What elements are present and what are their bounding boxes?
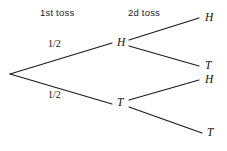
tree-edges-layer [0, 0, 227, 151]
edge-root-to-h [10, 43, 112, 74]
leaf-heads-heads: H [205, 12, 213, 24]
edge-probability-upper: 1/2 [48, 39, 61, 49]
node-first-toss-heads: H [117, 37, 125, 49]
column-header-second-toss: 2d toss [128, 8, 160, 18]
edge-h-to-h [129, 18, 199, 40]
edge-t-to-t [129, 107, 202, 133]
leaf-heads-tails: T [205, 60, 211, 72]
edge-root-to-t [10, 74, 112, 104]
edge-t-to-h [129, 80, 199, 100]
probability-tree-diagram: 1st toss 2d toss 1/2 1/2 H T H T H T [0, 0, 227, 151]
node-first-toss-tails: T [117, 97, 123, 109]
leaf-tails-tails: T [207, 127, 213, 139]
leaf-tails-heads: H [205, 74, 213, 86]
column-header-first-toss: 1st toss [40, 8, 74, 18]
edge-probability-lower: 1/2 [48, 90, 61, 100]
edge-h-to-t [129, 46, 199, 66]
